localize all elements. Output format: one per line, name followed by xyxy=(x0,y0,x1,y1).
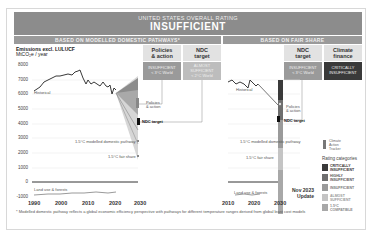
label-historical: Historical xyxy=(34,90,50,95)
x-tick: 1990 xyxy=(28,200,40,206)
legend-swatch xyxy=(322,174,328,181)
x-tick: 2010 xyxy=(82,200,94,206)
logo-text: Tracker xyxy=(329,147,341,151)
legend-item-highly-insufficient: HIGHLYINSUFFICIENT xyxy=(320,173,358,182)
x-tick: 2020 xyxy=(109,200,121,206)
legend-swatch xyxy=(322,204,328,211)
legend-label: INSUFFICIENT xyxy=(330,178,354,182)
label-15-pathway-right: 1.5°C modelled domestic pathway xyxy=(240,139,301,144)
legend-swatch xyxy=(322,164,328,171)
label-15-fair-share-right: 1.5°C fair share xyxy=(246,155,274,160)
legend-label: INSUFFICIENT xyxy=(330,186,354,190)
label-ndc-target-right: NDC target xyxy=(284,118,305,123)
update-label: Nov 2023 Update xyxy=(292,187,314,199)
climate-action-tracker-logo: Climate Action Tracker xyxy=(329,139,341,151)
legend-item-critically-insufficient: CRITICALLYINSUFFICIENT xyxy=(320,163,358,172)
label-land-use-right: Land use & forests xyxy=(234,190,267,195)
label-historical-right: Historical xyxy=(236,87,252,92)
legend-label: SUFFICIENT xyxy=(330,198,351,202)
x-tick: 2000 xyxy=(55,200,67,206)
label-line: & action xyxy=(146,105,160,109)
x-tick: 2020 xyxy=(248,200,260,206)
x-tick: 2010 xyxy=(222,200,234,206)
legend-item-insufficient: INSUFFICIENT xyxy=(320,183,358,192)
legend-label: INSUFFICIENT xyxy=(330,168,354,172)
x-tick: 2030 xyxy=(274,200,286,206)
label-15-pathway: 1.5°C modelled domestic pathway xyxy=(75,139,136,144)
legend-swatch xyxy=(322,184,328,191)
label-policies-action: Policies & action xyxy=(146,101,160,109)
label-land-use: Land use & forests xyxy=(34,187,67,192)
legend-label: COMPATIBLE xyxy=(330,208,353,212)
label-15-fair-share: 1.5°C fair share xyxy=(108,154,136,159)
legend-item-almost-sufficient: ALMOSTSUFFICIENT xyxy=(320,193,358,202)
update-text: Update xyxy=(292,193,314,199)
x-tick: 2030 xyxy=(134,200,146,206)
legend-title: Rating categories xyxy=(322,156,357,161)
footnote: * Modelled domestic pathway reflects a g… xyxy=(16,209,305,214)
label-policies-action-right: Policies & action xyxy=(286,105,300,113)
label-line: & action xyxy=(286,109,300,113)
label-ndc-target: NDC target xyxy=(142,119,163,124)
legend-item-15-compatible: 1.5°CCOMPATIBLE xyxy=(320,203,358,212)
legend-swatch xyxy=(322,194,328,201)
